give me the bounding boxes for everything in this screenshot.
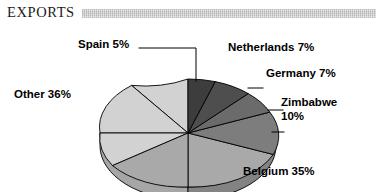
leader-line-spain [139,48,196,81]
page-title: EXPORTS [7,3,75,21]
chart-area: Spain 5% Netherlands 7% Germany 7% Zimba… [0,28,376,192]
pie-label-zimbabwe: Zimbabwe 10% [281,96,357,123]
pie-label-zimbabwe-line1: Zimbabwe [281,96,337,108]
pie-label-germany: Germany 7% [266,67,336,81]
header-rule-decoration [82,9,376,18]
pie-label-netherlands: Netherlands 7% [228,41,314,55]
pie-label-zimbabwe-line2: 10% [281,110,304,122]
pie-label-belgium: Belgium 35% [243,165,315,179]
exports-pie-chart-figure: EXPORTS [0,0,376,192]
figure-header: EXPORTS [0,0,376,28]
pie-label-other: Other 36% [14,88,71,102]
pie-label-spain: Spain 5% [78,38,129,52]
